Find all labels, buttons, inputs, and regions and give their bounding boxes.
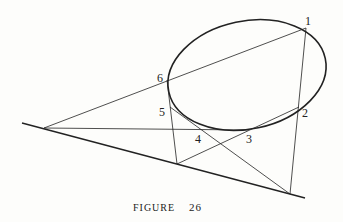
line-6-5 [167,80,177,164]
line-1-6 [44,28,306,128]
point-label-6: 6 [157,71,163,85]
point-label-1: 1 [305,14,311,28]
pascal-figure: 1 2 3 4 5 6 FIGURE 26 [0,0,343,222]
caption-number: 26 [189,201,202,213]
point-label-3: 3 [246,132,252,146]
point-label-2: 2 [302,106,308,120]
point-label-5: 5 [159,105,165,119]
pascal-line [22,123,305,198]
point-label-4: 4 [195,132,201,146]
figure-caption: FIGURE 26 [133,201,202,213]
caption-word: FIGURE [133,202,175,213]
